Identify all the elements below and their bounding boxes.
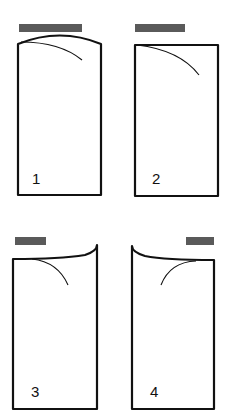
sheet-outline-curl-left — [132, 246, 214, 409]
sheet-outline-flat — [135, 45, 218, 196]
panel-number: 4 — [150, 383, 158, 400]
sheet-outline-convex — [18, 36, 101, 196]
panel-2: 2 — [135, 24, 218, 196]
inner-curve — [21, 42, 82, 60]
gray-bar-indicator — [186, 237, 214, 245]
gray-bar-indicator — [19, 24, 82, 32]
inner-curve — [32, 259, 68, 285]
inner-curve — [161, 261, 196, 285]
panel-number: 1 — [32, 170, 40, 187]
sheet-outline-curl-right — [13, 245, 97, 409]
panel-4: 4 — [132, 237, 214, 409]
panel-3: 3 — [13, 237, 97, 409]
inner-curve — [137, 45, 199, 75]
gray-bar-indicator — [15, 237, 46, 245]
sheet-deformation-diagram: 1 2 3 4 — [0, 0, 228, 419]
panel-number: 3 — [31, 383, 39, 400]
gray-bar-indicator — [135, 24, 185, 32]
panel-1: 1 — [18, 24, 101, 195]
panel-number: 2 — [152, 170, 160, 187]
